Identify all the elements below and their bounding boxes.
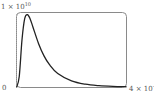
data-curve (17, 15, 127, 88)
plot-frame (17, 13, 127, 88)
plot-area (0, 0, 154, 95)
